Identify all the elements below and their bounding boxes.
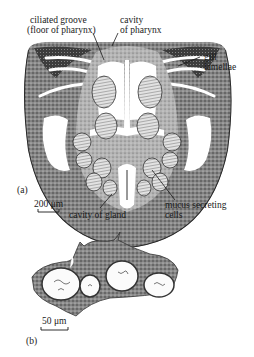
label-mucus-secreting: mucus secreting bbox=[165, 200, 226, 210]
label-gill: gill bbox=[204, 52, 217, 62]
label-ciliated-groove: ciliated groove bbox=[30, 15, 87, 25]
label-lamellae: lamellae bbox=[204, 62, 236, 72]
panel-b-section bbox=[32, 232, 178, 316]
scale-bar-b-line bbox=[41, 327, 68, 330]
scale-bar-b-label: 50 μm bbox=[42, 316, 66, 326]
label-cavity: cavity bbox=[120, 15, 143, 25]
label-cavity-of-gland: cavity of gland bbox=[69, 210, 126, 220]
scale-bar-a-label: 200 μm bbox=[34, 199, 63, 209]
label-floor-of-pharynx: (floor of pharynx) bbox=[27, 25, 96, 35]
panel-a-section bbox=[24, 42, 232, 248]
label-cells: cells bbox=[165, 210, 182, 220]
label-of-pharynx: of pharynx bbox=[120, 25, 161, 35]
panel-a-tag: (a) bbox=[17, 185, 28, 195]
panel-b-tag: (b) bbox=[26, 336, 37, 346]
